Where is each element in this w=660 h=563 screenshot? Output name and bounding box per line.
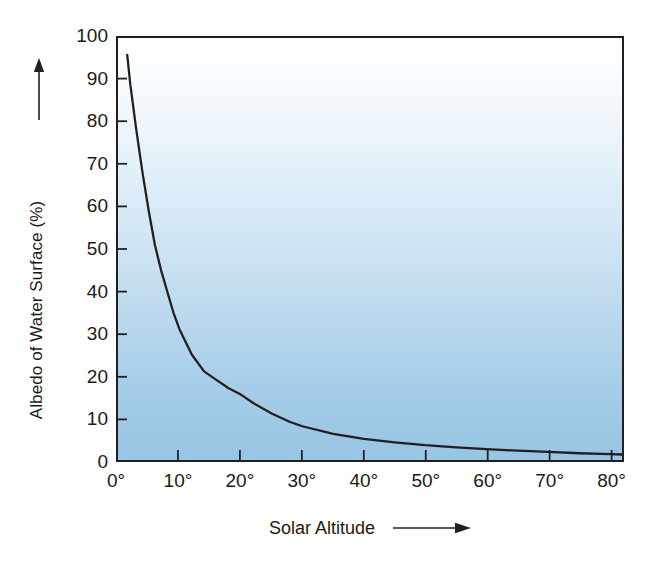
y-tick-label: 10	[62, 409, 108, 428]
x-tick-label: 10°	[148, 470, 208, 492]
plot-area	[116, 36, 624, 462]
y-tick-label: 80	[62, 111, 108, 130]
x-axis-block: Solar Altitude	[116, 508, 624, 548]
x-tick-label: 70°	[520, 470, 580, 492]
y-axis-title: Albedo of Water Surface (%)	[27, 150, 47, 470]
y-tick-label: 30	[62, 324, 108, 343]
x-tick-label: 50°	[396, 470, 456, 492]
y-tick-label: 50	[62, 239, 108, 258]
y-tick-label: 20	[62, 367, 108, 386]
right-arrow-icon	[393, 521, 471, 535]
x-tick-label-group: 0°10°20°30°40°50°60°70°80°	[0, 470, 660, 500]
y-tick-label: 60	[62, 196, 108, 215]
y-tick-label: 70	[62, 154, 108, 173]
x-tick-label: 20°	[210, 470, 270, 492]
albedo-curve-svg	[118, 38, 622, 460]
y-tick-label: 0	[62, 452, 108, 471]
x-tick-label: 0°	[86, 470, 146, 492]
x-tick-label: 40°	[334, 470, 394, 492]
x-tick-label: 30°	[272, 470, 332, 492]
x-tick-label: 60°	[458, 470, 518, 492]
albedo-curve	[127, 55, 622, 455]
x-tick-label: 80°	[582, 470, 642, 492]
y-tick-label: 90	[62, 69, 108, 88]
x-axis-title: Solar Altitude	[269, 518, 375, 539]
y-tick-label: 40	[62, 282, 108, 301]
albedo-chart-figure: Albedo of Water Surface (%) 010203040506…	[0, 0, 660, 563]
up-arrow-icon	[32, 58, 46, 120]
y-axis-block: Albedo of Water Surface (%)	[0, 0, 62, 500]
y-tick-label: 100	[62, 26, 108, 45]
